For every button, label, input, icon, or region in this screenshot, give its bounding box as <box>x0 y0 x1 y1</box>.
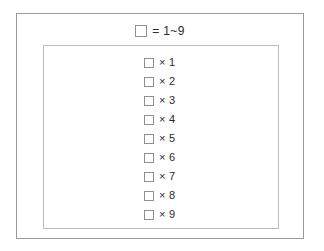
list-item-label: × 8 <box>159 190 176 201</box>
list-item[interactable]: × 3 <box>144 91 178 110</box>
multiplier-panel: × 1 × 2 × 3 × 4 × 5 × 6 <box>43 45 279 229</box>
legend-text: = 1~9 <box>152 25 185 37</box>
list-item-label: × 4 <box>159 114 176 125</box>
legend: = 1~9 <box>17 22 303 40</box>
list-item[interactable]: × 8 <box>144 186 178 205</box>
empty-square-icon[interactable] <box>144 172 154 182</box>
empty-square-icon[interactable] <box>144 153 154 163</box>
list-item[interactable]: × 1 <box>144 53 178 72</box>
list-item-label: × 3 <box>159 95 176 106</box>
empty-square-icon[interactable] <box>144 115 154 125</box>
multiplier-list: × 1 × 2 × 3 × 4 × 5 × 6 <box>44 53 278 224</box>
list-item[interactable]: × 7 <box>144 167 178 186</box>
empty-square-icon[interactable] <box>144 210 154 220</box>
empty-square-icon[interactable] <box>144 58 154 68</box>
list-item[interactable]: × 2 <box>144 72 178 91</box>
list-item-label: × 2 <box>159 76 176 87</box>
list-item-label: × 6 <box>159 152 176 163</box>
empty-square-icon[interactable] <box>135 25 147 37</box>
list-item-label: × 7 <box>159 171 176 182</box>
list-item-label: × 5 <box>159 133 176 144</box>
list-item[interactable]: × 9 <box>144 205 178 224</box>
list-item-label: × 1 <box>159 57 176 68</box>
list-item[interactable]: × 6 <box>144 148 178 167</box>
empty-square-icon[interactable] <box>144 191 154 201</box>
empty-square-icon[interactable] <box>144 96 154 106</box>
worksheet-frame: = 1~9 × 1 × 2 × 3 × 4 × 5 <box>16 13 304 239</box>
empty-square-icon[interactable] <box>144 134 154 144</box>
list-item[interactable]: × 4 <box>144 110 178 129</box>
list-item[interactable]: × 5 <box>144 129 178 148</box>
empty-square-icon[interactable] <box>144 77 154 87</box>
list-item-label: × 9 <box>159 209 176 220</box>
